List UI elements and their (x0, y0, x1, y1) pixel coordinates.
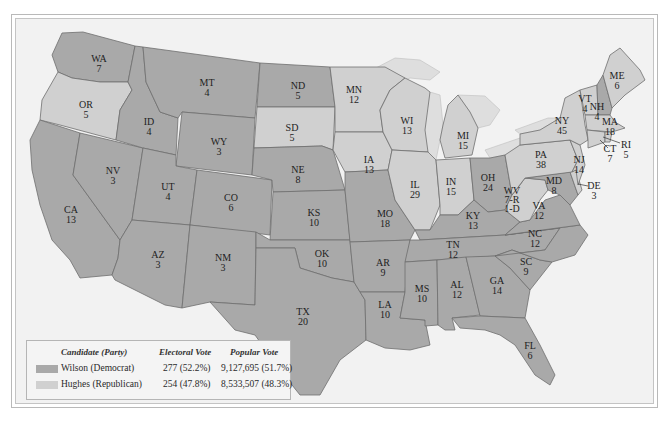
legend-box: Candidate (Party) Electoral Vote Popular… (26, 340, 291, 400)
state-FL[interactable] (452, 316, 555, 385)
legend-swatch-republican (36, 381, 58, 389)
legend-candidate: Hughes (Republican) (61, 379, 142, 389)
legend-electoral: 254 (47.8%) (163, 379, 211, 389)
legend-popular: 9,127,695 (51.7%) (221, 363, 292, 373)
svg-text:WV7-R1-D: WV7-R1-D (504, 185, 521, 214)
svg-text:TN12: TN12 (446, 239, 459, 260)
legend-header-electoral: Electoral Vote (159, 347, 211, 357)
legend-row-wilson: Wilson (Democrat) 277 (52.2%) 9,127,695 … (27, 363, 290, 377)
legend-electoral: 277 (52.2%) (163, 363, 211, 373)
svg-text:RI5: RI5 (621, 139, 631, 160)
svg-text:AL12: AL12 (450, 279, 463, 300)
svg-text:PA38: PA38 (535, 149, 548, 170)
svg-text:NJ14: NJ14 (573, 154, 584, 175)
legend-candidate: Wilson (Democrat) (61, 363, 134, 373)
svg-text:IA13: IA13 (364, 154, 375, 175)
state-NM[interactable] (182, 225, 256, 308)
svg-text:IN15: IN15 (446, 176, 457, 197)
svg-text:CT7: CT7 (604, 143, 617, 164)
legend-header-candidate: Candidate (Party) (61, 347, 127, 357)
svg-text:IL29: IL29 (410, 179, 420, 200)
legend-popular: 8,533,507 (48.3%) (221, 379, 292, 389)
legend-header-popular: Popular Vote (230, 347, 278, 357)
svg-text:DE3: DE3 (587, 180, 600, 201)
state-IA[interactable] (333, 132, 392, 172)
legend-row-hughes: Hughes (Republican) 254 (47.8%) 8,533,50… (27, 379, 290, 393)
svg-text:MI15: MI15 (457, 130, 469, 151)
svg-text:MA18: MA18 (602, 116, 619, 137)
svg-text:KS10: KS10 (308, 207, 321, 228)
state-AZ[interactable] (112, 220, 190, 308)
state-CT[interactable] (587, 130, 605, 148)
svg-text:WI13: WI13 (401, 115, 414, 136)
legend-swatch-democrat (36, 365, 58, 373)
